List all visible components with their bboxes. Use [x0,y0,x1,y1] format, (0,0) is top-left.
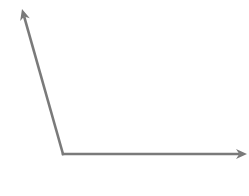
rays-group [20,9,247,159]
angle-diagram [0,0,249,196]
upper-left-ray-line [24,18,63,154]
